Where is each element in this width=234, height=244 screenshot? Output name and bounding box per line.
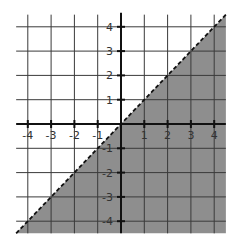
y-tick-label: -4 — [102, 215, 113, 228]
inequality-graph: -4-3-2-112344321-1-2-3-4 — [0, 0, 234, 244]
y-tick-label: -1 — [102, 142, 113, 155]
x-tick-label: -1 — [92, 129, 103, 142]
y-tick-label: 1 — [106, 94, 113, 107]
x-tick-label: 1 — [141, 129, 148, 142]
x-tick-label: 4 — [211, 129, 218, 142]
x-tick-label: -3 — [46, 129, 57, 142]
y-tick-label: 3 — [106, 45, 113, 58]
x-tick-label: -2 — [69, 129, 80, 142]
x-tick-label: -4 — [22, 129, 33, 142]
y-tick-label: 4 — [106, 21, 113, 34]
y-tick-label: 2 — [106, 69, 113, 82]
x-tick-label: 2 — [164, 129, 171, 142]
y-tick-label: -3 — [102, 191, 113, 204]
x-tick-label: 3 — [187, 129, 194, 142]
y-tick-label: -2 — [102, 167, 113, 180]
